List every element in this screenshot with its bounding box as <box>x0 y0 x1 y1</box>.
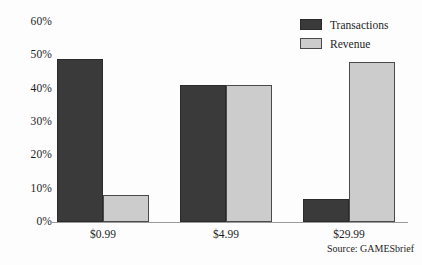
y-axis-tick-label: 60% <box>8 16 52 28</box>
chart-legend: Transactions Revenue <box>300 16 388 54</box>
source-note: Source: GAMESbrief <box>327 243 414 254</box>
bar-transactions-1 <box>180 85 226 222</box>
bar-chart: 60%50%40%30%20%10%0% Transactions Revenu… <box>0 0 422 265</box>
bar-group <box>57 22 149 222</box>
legend-item-transactions: Transactions <box>300 16 388 33</box>
legend-label-transactions: Transactions <box>330 19 388 31</box>
legend-swatch-transactions-icon <box>300 19 322 30</box>
x-axis-tick-label: $29.99 <box>294 228 404 241</box>
bar-revenue-2 <box>349 62 395 222</box>
y-axis: 60%50%40%30%20%10%0% <box>8 0 52 265</box>
legend-label-revenue: Revenue <box>330 38 370 50</box>
y-axis-tick-label: 50% <box>8 49 52 61</box>
y-axis-tick-label: 20% <box>8 149 52 161</box>
bar-revenue-1 <box>226 85 272 222</box>
x-axis-tick-label: $0.99 <box>48 228 158 241</box>
bar-group <box>180 22 272 222</box>
x-axis-tick-label: $4.99 <box>171 228 281 241</box>
legend-item-revenue: Revenue <box>300 35 388 52</box>
bar-revenue-0 <box>103 195 149 222</box>
y-axis-tick-label: 10% <box>8 183 52 195</box>
x-axis-line <box>52 222 408 223</box>
legend-swatch-revenue-icon <box>300 38 322 49</box>
bar-transactions-0 <box>57 59 103 222</box>
y-axis-tick-label: 30% <box>8 116 52 128</box>
bar-transactions-2 <box>303 199 349 222</box>
y-axis-tick-label: 0% <box>8 216 52 228</box>
y-axis-tick-label: 40% <box>8 83 52 95</box>
